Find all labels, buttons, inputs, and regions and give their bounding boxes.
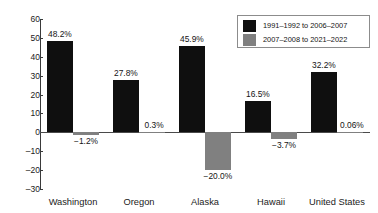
bar (73, 132, 99, 134)
y-axis-tick-label: 40 (12, 53, 40, 62)
legend-entry-series-1: 1991–1992 to 2006–2007 (243, 20, 347, 32)
bar-value-label: 0.06% (340, 121, 364, 129)
x-axis-category-label: Alaska (191, 198, 219, 207)
legend-swatch-icon (243, 20, 256, 32)
x-axis-category-label: Hawaii (257, 198, 285, 207)
legend-entry-series-2: 2007–2008 to 2021–2022 (243, 34, 347, 46)
bar (205, 132, 231, 170)
bar (113, 80, 139, 133)
x-axis-category-label: United States (309, 198, 365, 207)
y-axis-tick-label: 20 (12, 90, 40, 99)
legend: 1991–1992 to 2006–2007 2007–2008 to 2021… (237, 15, 370, 48)
y-axis-tick-label: 60 (12, 15, 40, 24)
y-axis-tick-label: 10 (12, 109, 40, 118)
y-axis-tick-label: –20 (12, 166, 40, 175)
bar (245, 101, 271, 132)
bar-value-label: −3.7% (272, 141, 296, 149)
bar (179, 46, 205, 133)
bar-value-label: 16.5% (246, 90, 270, 98)
bar (271, 132, 297, 139)
y-axis-tick-label: 0 (12, 128, 40, 137)
x-axis-category-label: Oregon (123, 198, 154, 207)
y-axis-tick-mark (40, 189, 43, 190)
bar-value-label: 48.2% (48, 30, 72, 38)
legend-label: 1991–1992 to 2006–2007 (263, 22, 347, 29)
bar-value-label: −20.0% (204, 172, 233, 180)
x-axis-category-label: Washington (49, 198, 98, 207)
legend-swatch-icon (243, 34, 256, 46)
y-axis-tick-label: 50 (12, 34, 40, 43)
y-axis-tick-label: –30 (12, 185, 40, 194)
bar (139, 132, 165, 133)
bar-value-label: 32.2% (312, 61, 336, 69)
bar (47, 41, 73, 132)
bar (311, 72, 337, 133)
bar-value-label: 45.9% (180, 35, 204, 43)
bar-value-label: 27.8% (114, 69, 138, 77)
bar (337, 132, 363, 133)
bar-value-label: −1.2% (74, 137, 98, 145)
y-axis-tick-label: 30 (12, 71, 40, 80)
y-axis-tick-label: –10 (12, 147, 40, 156)
bar-value-label: 0.3% (145, 121, 164, 129)
bar-chart: 6050403020100–10–20–30 48.2%−1.2%27.8%0.… (0, 0, 378, 213)
legend-label: 2007–2008 to 2021–2022 (263, 36, 347, 43)
